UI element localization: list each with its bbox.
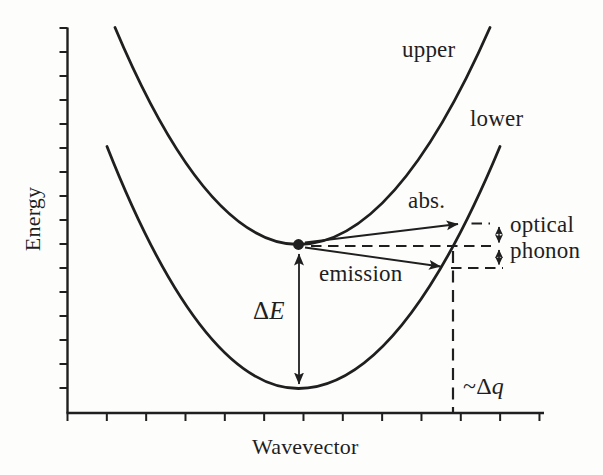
x-axis-ticks [68, 413, 540, 421]
x-axis-title: Wavevector [252, 435, 359, 459]
emission-label: emission [319, 262, 402, 287]
y-axis-title: Energy [21, 187, 45, 251]
lower-band-curve [107, 147, 500, 389]
delta-e-label: ΔE [253, 297, 285, 324]
absorption-label: abs. [408, 189, 445, 214]
delta-q-label: ~Δq [463, 374, 504, 400]
absorption-arrow [305, 224, 458, 243]
lower-band-label: lower [470, 107, 523, 132]
band-diagram: Energy Wavevector upper lower abs. emiss… [0, 0, 603, 475]
optical-phonon-line1: optical [510, 212, 574, 237]
optical-phonon-label: optical phonon [510, 212, 580, 264]
electron-dot [293, 239, 304, 250]
upper-band-label: upper [402, 38, 455, 63]
optical-phonon-line2: phonon [510, 238, 580, 263]
